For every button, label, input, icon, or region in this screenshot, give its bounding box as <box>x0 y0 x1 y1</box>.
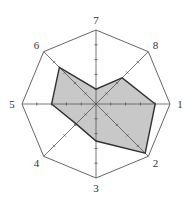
axis-label-2: 2 <box>153 157 159 169</box>
data-area <box>52 67 156 153</box>
axis-label-4: 4 <box>34 157 40 169</box>
axis-label-8: 8 <box>153 39 159 51</box>
axis-label-5: 5 <box>9 98 15 110</box>
axis-label-1: 1 <box>177 98 183 110</box>
axis-spokes <box>22 30 170 178</box>
axis-label-7: 7 <box>93 14 99 26</box>
data-polygon <box>52 67 156 153</box>
axis-label-6: 6 <box>34 39 40 51</box>
radar-chart: 12345678 <box>0 0 183 206</box>
axis-label-3: 3 <box>93 182 99 194</box>
